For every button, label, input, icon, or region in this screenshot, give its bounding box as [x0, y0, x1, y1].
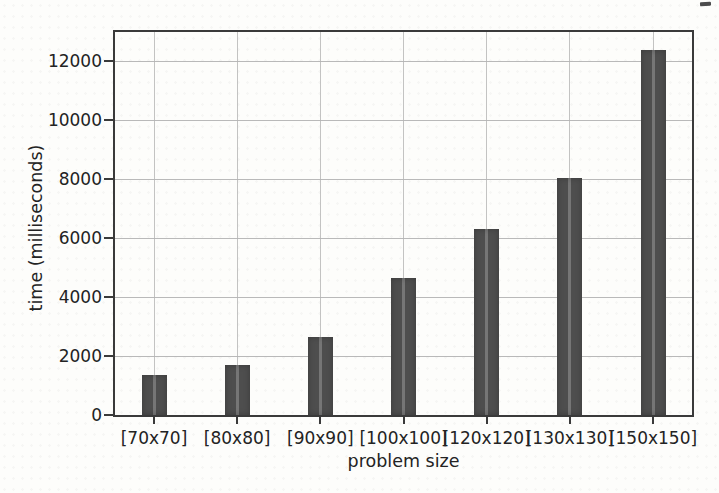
y-tick-mark	[104, 178, 113, 180]
y-tick-label: 6000	[0, 230, 102, 247]
bar	[391, 278, 416, 415]
y-tick-label: 12000	[0, 53, 102, 70]
x-tick-label: [100x100]	[359, 428, 447, 448]
grid-line-vertical	[154, 32, 155, 415]
x-tick-mark	[153, 417, 155, 424]
y-tick-label: 4000	[0, 289, 102, 306]
y-tick-mark	[104, 237, 113, 239]
grid-line-vertical	[237, 32, 238, 415]
x-tick-mark	[403, 417, 405, 424]
scan-artifact-speck	[700, 2, 711, 7]
x-tick-mark	[236, 417, 238, 424]
x-tick-mark	[319, 417, 321, 424]
x-tick-mark	[652, 417, 654, 424]
y-tick-mark	[104, 355, 113, 357]
x-tick-label: [150x150]	[609, 428, 697, 448]
x-tick-label: [120x120]	[443, 428, 531, 448]
plot-inner	[115, 32, 692, 415]
y-tick-mark	[104, 296, 113, 298]
y-tick-mark	[104, 60, 113, 62]
bar	[308, 337, 333, 415]
bar-chart-figure: 020004000600080001000012000[70x70][80x80…	[0, 0, 719, 493]
y-axis-label: time (milliseconds)	[26, 145, 46, 312]
bar	[557, 178, 582, 415]
bar	[142, 375, 167, 415]
bar	[641, 50, 666, 415]
x-tick-mark	[569, 417, 571, 424]
plot-area	[113, 30, 694, 417]
x-tick-mark	[486, 417, 488, 424]
bar	[474, 229, 499, 415]
x-tick-label: [70x70]	[121, 428, 188, 448]
y-tick-mark	[104, 414, 113, 416]
bar	[225, 365, 250, 415]
y-tick-label: 8000	[0, 171, 102, 188]
y-tick-label: 0	[0, 407, 102, 424]
y-tick-label: 2000	[0, 348, 102, 365]
x-tick-label: [90x90]	[287, 428, 354, 448]
x-axis-label: problem size	[113, 451, 694, 471]
y-tick-label: 10000	[0, 112, 102, 129]
x-tick-label: [130x130]	[526, 428, 614, 448]
y-tick-mark	[104, 119, 113, 121]
x-tick-label: [80x80]	[204, 428, 271, 448]
